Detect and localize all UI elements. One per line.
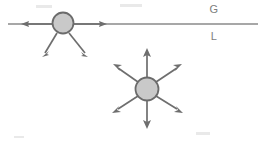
gas-phase-label: G bbox=[210, 3, 219, 15]
background bbox=[0, 0, 266, 146]
bulk-bubble bbox=[136, 78, 159, 101]
liquid-phase-label: L bbox=[211, 30, 217, 42]
figure-canvas: G L bbox=[0, 0, 266, 146]
diagram-svg: G L bbox=[0, 0, 266, 146]
interface-bubble bbox=[53, 13, 74, 34]
